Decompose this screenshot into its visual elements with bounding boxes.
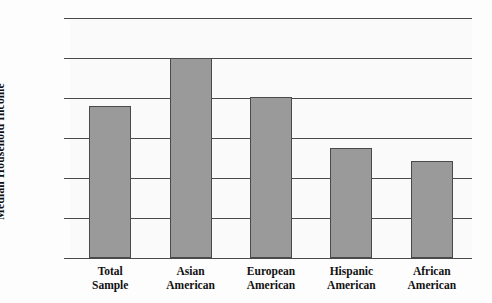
- x-axis-category-label: AsianAmerican: [150, 264, 230, 293]
- y-axis-tick-mark: [64, 138, 70, 139]
- y-axis-tick-mark: [64, 178, 70, 179]
- x-axis-category-label: AfricanAmerican: [392, 264, 472, 293]
- bar: [170, 58, 212, 258]
- x-axis-category-label-line: African: [392, 264, 472, 278]
- bar-chart: Median Household Income 010,00020,00030,…: [0, 0, 492, 303]
- y-axis-tick-mark: [64, 98, 70, 99]
- x-axis-category-label-line: Asian: [150, 264, 230, 278]
- x-axis-line: [70, 258, 472, 259]
- plot-area: [70, 18, 472, 258]
- y-axis-tick-mark: [64, 18, 70, 19]
- y-axis-tick-mark: [64, 218, 70, 219]
- x-axis-category-label-line: Sample: [70, 278, 150, 292]
- x-axis-category-label: TotalSample: [70, 264, 150, 293]
- x-axis-category-label-line: American: [150, 278, 230, 292]
- x-axis-category-label: HispanicAmerican: [311, 264, 391, 293]
- x-axis-category-label-line: American: [311, 278, 391, 292]
- y-axis-title: Median Household Income: [0, 0, 40, 303]
- gridline: [70, 58, 472, 59]
- bar: [250, 97, 292, 258]
- x-axis-category-label-line: American: [231, 278, 311, 292]
- x-axis-category-label-line: European: [231, 264, 311, 278]
- bar: [411, 161, 453, 258]
- y-axis-tick-mark: [64, 58, 70, 59]
- bar: [89, 106, 131, 258]
- x-axis-category-label-line: Hispanic: [311, 264, 391, 278]
- bar: [330, 148, 372, 258]
- x-axis-category-label-line: Total: [70, 264, 150, 278]
- gridline: [70, 18, 472, 19]
- x-axis-category-label-line: American: [392, 278, 472, 292]
- x-axis-category-label: EuropeanAmerican: [231, 264, 311, 293]
